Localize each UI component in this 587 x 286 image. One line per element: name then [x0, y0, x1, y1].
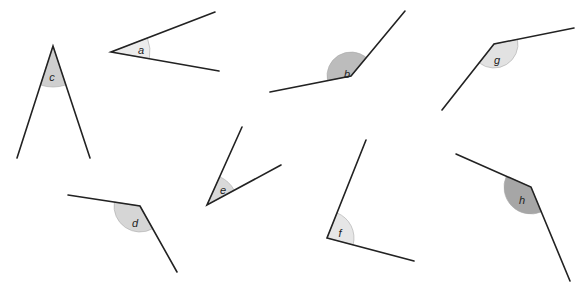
angle-f: f [327, 140, 414, 261]
angle-rays-h [456, 154, 570, 281]
angle-label-a: a [138, 44, 144, 56]
angle-label-c: c [49, 71, 55, 83]
angle-h: h [456, 154, 570, 281]
angles-layer: abcdefgh [17, 11, 574, 281]
angle-label-d: d [132, 217, 139, 229]
angle-label-h: h [519, 194, 525, 206]
angles-diagram: abcdefgh [0, 0, 587, 286]
angle-g: g [442, 28, 574, 110]
angle-rays-g [442, 28, 574, 110]
angle-rays-f [327, 140, 414, 261]
angle-a: a [111, 12, 219, 71]
angle-rays-b [270, 11, 405, 92]
angle-label-e: e [220, 184, 226, 196]
angle-e: e [207, 127, 281, 205]
angle-rays-a [111, 12, 219, 71]
angle-b: b [270, 11, 405, 92]
angle-label-g: g [494, 54, 501, 66]
angle-d: d [68, 195, 177, 272]
angle-c: c [17, 46, 90, 158]
angle-label-b: b [344, 68, 350, 80]
